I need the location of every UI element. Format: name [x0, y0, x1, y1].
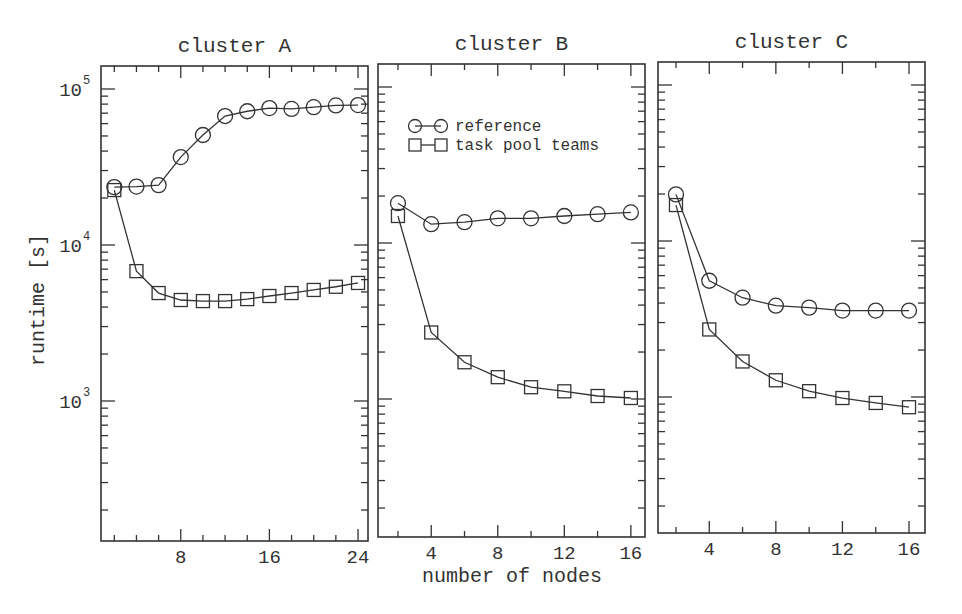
legend-entry-reference: reference	[409, 118, 542, 136]
legend-label: task pool teams	[455, 137, 599, 155]
x-tick-label: 12	[553, 543, 576, 565]
x-tick-label: 8	[492, 543, 503, 565]
panel-title: cluster B	[455, 33, 568, 56]
panel-cluster-b: cluster B 481216	[378, 33, 645, 565]
series-line-reference	[114, 105, 358, 187]
legend: reference task pool teams	[409, 118, 600, 155]
x-axis-label: number of nodes	[422, 565, 602, 588]
y-tick-label: 10	[59, 392, 82, 414]
x-tick-label: 12	[831, 539, 854, 561]
legend-entry-task-pool-teams: task pool teams	[409, 137, 599, 155]
runtime-chart-figure: runtime [s] number of nodes 105104103 cl…	[0, 0, 962, 614]
panel-cluster-c: cluster C 481216	[658, 31, 925, 561]
series-line-reference	[676, 194, 909, 310]
y-tick-label: 10	[59, 80, 82, 102]
series-line-task-pool-teams	[398, 216, 631, 398]
panel-title: cluster C	[735, 31, 848, 54]
series-line-task-pool-teams	[114, 190, 358, 301]
y-tick-label: 10	[59, 236, 82, 258]
y-tick-exponent: 4	[83, 230, 90, 244]
plot-frame	[101, 66, 368, 541]
legend-label: reference	[455, 118, 541, 136]
plot-frame	[658, 62, 925, 533]
square-marker-icon	[435, 139, 447, 151]
y-tick-exponent: 3	[83, 386, 90, 400]
x-tick-label: 4	[704, 539, 715, 561]
x-tick-label: 4	[426, 543, 437, 565]
x-tick-label: 16	[898, 539, 921, 561]
panel-title: cluster A	[178, 35, 292, 58]
panel-cluster-a: cluster A 81624	[101, 35, 369, 569]
x-tick-label: 16	[258, 547, 281, 569]
x-tick-label: 16	[619, 543, 642, 565]
x-tick-label: 8	[770, 539, 781, 561]
y-tick-labels: 105104103	[59, 74, 90, 414]
x-tick-label: 8	[175, 547, 186, 569]
y-axis-label: runtime [s]	[27, 234, 50, 366]
x-tick-label: 24	[347, 547, 370, 569]
square-marker-icon	[409, 139, 421, 151]
y-tick-exponent: 5	[83, 74, 90, 88]
